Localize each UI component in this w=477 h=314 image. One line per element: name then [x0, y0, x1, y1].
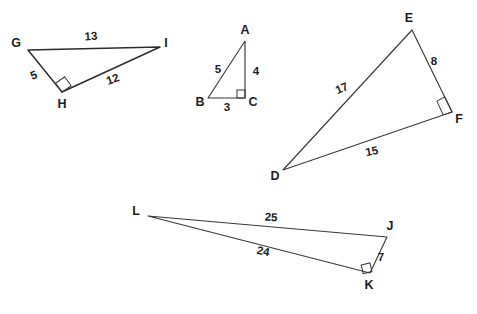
side-label-ef: 8	[431, 55, 438, 67]
vertex-label-i: I	[164, 36, 167, 50]
side-label-lj: 25	[264, 211, 278, 224]
side-label-ab: 5	[215, 63, 222, 75]
side-label-gi: 13	[84, 30, 98, 43]
canvas-background	[0, 0, 477, 314]
vertex-label-e: E	[405, 11, 413, 25]
vertex-label-c: C	[248, 95, 257, 109]
vertex-label-d: D	[270, 169, 279, 183]
vertex-label-g: G	[11, 36, 21, 50]
vertex-label-l: L	[132, 204, 140, 218]
side-label-jk: 7	[378, 251, 384, 263]
vertex-label-a: A	[240, 23, 249, 37]
vertex-label-h: H	[57, 97, 66, 111]
diagram-page: G I H 13 5 12 A B C 5 4 3 E F D 17 8 1	[0, 0, 477, 314]
vertex-label-j: J	[387, 219, 394, 233]
side-label-bc: 3	[224, 101, 230, 113]
vertex-label-f: F	[455, 112, 463, 126]
side-label-ac: 4	[253, 65, 260, 77]
vertex-label-k: K	[364, 278, 373, 292]
geometry-figure: G I H 13 5 12 A B C 5 4 3 E F D 17 8 1	[0, 0, 477, 314]
vertex-label-b: B	[195, 95, 204, 109]
